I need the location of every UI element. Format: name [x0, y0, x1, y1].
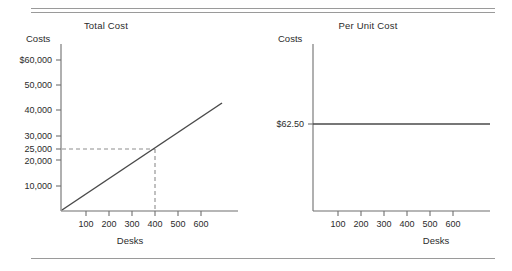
x-tick-label-100: 100: [330, 219, 345, 229]
x-tick-label-300: 300: [376, 219, 391, 229]
y-tick-label-50000: 50,000: [24, 80, 52, 90]
y-tick-label-25000: 25,000: [24, 144, 52, 154]
total-cost-series-line: [62, 103, 222, 210]
x-tick-label-200: 200: [353, 219, 368, 229]
y-tick-label-30000: 30,000: [24, 131, 52, 141]
x-tick-label-500: 500: [422, 219, 437, 229]
y-tick-label-20000: 20,000: [24, 156, 52, 166]
bottom-rule: [31, 258, 495, 259]
x-tick-label-500: 500: [170, 219, 185, 229]
x-tick-label-100: 100: [78, 219, 93, 229]
plot-area-per-unit-cost: $62.50 100 200 300 400 500 600: [256, 0, 512, 258]
chart-per-unit-cost: Per Unit Cost Costs Desks $62.50 100 200…: [256, 0, 512, 258]
y-tick-label-60000: $60,000: [19, 55, 52, 65]
y-tick-label-6250: $62.50: [276, 119, 304, 129]
x-tick-label-200: 200: [101, 219, 116, 229]
y-tick-label-40000: 40,000: [24, 105, 52, 115]
x-ticks-per-unit-cost: [338, 211, 453, 216]
chart-total-cost: Total Cost Costs Desks $60,000 50,000 40…: [0, 0, 256, 258]
plot-area-total-cost: $60,000 50,000 40,000 30,000 25,000 20,0…: [0, 0, 256, 258]
x-tick-label-400: 400: [147, 219, 162, 229]
x-tick-label-600: 600: [193, 219, 208, 229]
x-tick-label-300: 300: [124, 219, 139, 229]
figure-canvas: Total Cost Costs Desks $60,000 50,000 40…: [0, 0, 512, 271]
x-ticks-total-cost: [86, 211, 201, 216]
x-tick-label-400: 400: [399, 219, 414, 229]
x-tick-label-600: 600: [445, 219, 460, 229]
y-ticks-total-cost: [56, 60, 61, 186]
y-tick-label-10000: 10,000: [24, 181, 52, 191]
